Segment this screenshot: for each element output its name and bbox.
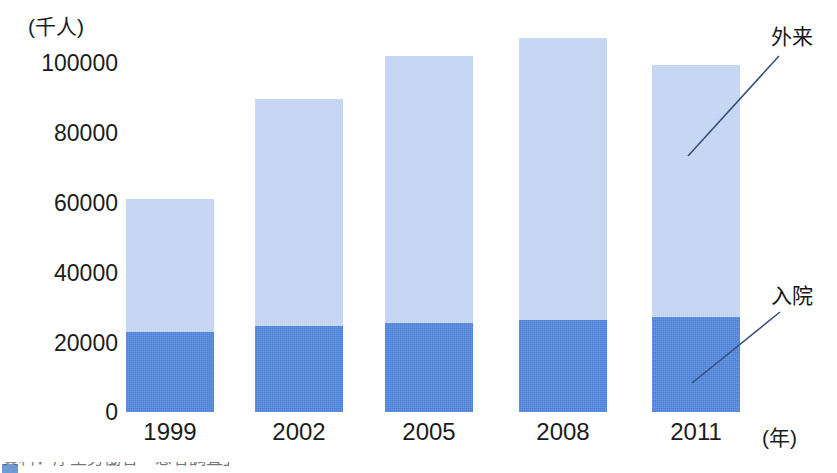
x-tick-2002: 2002 <box>255 419 343 445</box>
bar-segment-inpatient-2002 <box>255 326 343 412</box>
bar-2005 <box>385 56 473 412</box>
bar-segment-outpatient-1999 <box>126 199 214 332</box>
x-tick-1999: 1999 <box>126 419 214 445</box>
bar-segment-inpatient-1999 <box>126 332 214 412</box>
plot-area <box>0 0 837 473</box>
bar-segment-inpatient-2011 <box>652 317 740 412</box>
annotation-label-outpatient: 外来 <box>771 26 813 48</box>
bar-segment-inpatient-2005 <box>385 323 473 412</box>
caption-text: 資料：厚生労働省「患者調査」 <box>2 462 240 468</box>
stacked-bar-chart: (千人) 100000 80000 60000 40000 20000 0 <box>0 0 837 473</box>
bar-segment-inpatient-2008 <box>519 320 607 412</box>
bar-2008 <box>519 38 607 412</box>
bar-segment-outpatient-2005 <box>385 56 473 323</box>
x-tick-2011: 2011 <box>652 419 740 445</box>
bar-2002 <box>255 99 343 412</box>
bar-segment-outpatient-2008 <box>519 38 607 320</box>
bar-segment-outpatient-2011 <box>652 65 740 317</box>
annotation-label-inpatient: 入院 <box>771 285 813 307</box>
x-axis-unit-label: (年) <box>762 421 797 451</box>
x-tick-2005: 2005 <box>385 419 473 445</box>
bar-2011 <box>652 65 740 412</box>
bar-segment-outpatient-2002 <box>255 99 343 326</box>
x-tick-2008: 2008 <box>519 419 607 445</box>
cropped-source-caption: 資料：厚生労働省「患者調査」 <box>0 462 837 473</box>
bar-1999 <box>126 199 214 412</box>
